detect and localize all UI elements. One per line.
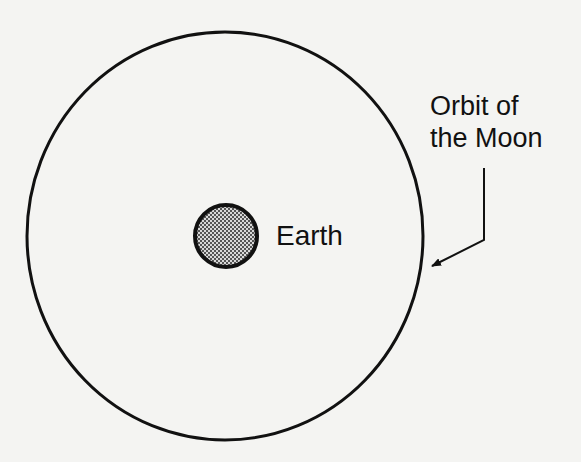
- earth-label: Earth: [276, 222, 343, 250]
- orbit-label-line-2: the Moon: [430, 122, 543, 154]
- orbit-label-line-1: Orbit of: [430, 90, 543, 122]
- earth-circle: [195, 205, 257, 267]
- orbit-of-moon-label: Orbit of the Moon: [430, 90, 543, 154]
- orbit-leader-arrow: [432, 168, 484, 266]
